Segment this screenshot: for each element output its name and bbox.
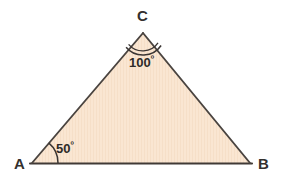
vertex-label-b: B <box>258 156 269 171</box>
angle-value-a: 50 <box>56 141 70 156</box>
angle-label-c: 100º <box>129 55 154 69</box>
angle-label-a: 50º <box>56 141 74 155</box>
vertex-label-a: A <box>14 156 25 171</box>
triangle-figure <box>0 0 281 181</box>
degree-symbol-c: º <box>151 54 154 64</box>
angle-value-c: 100 <box>129 55 151 70</box>
diagram-canvas: A B C 50º 100º <box>0 0 281 181</box>
vertex-label-c: C <box>137 8 148 23</box>
degree-symbol-a: º <box>70 140 73 150</box>
